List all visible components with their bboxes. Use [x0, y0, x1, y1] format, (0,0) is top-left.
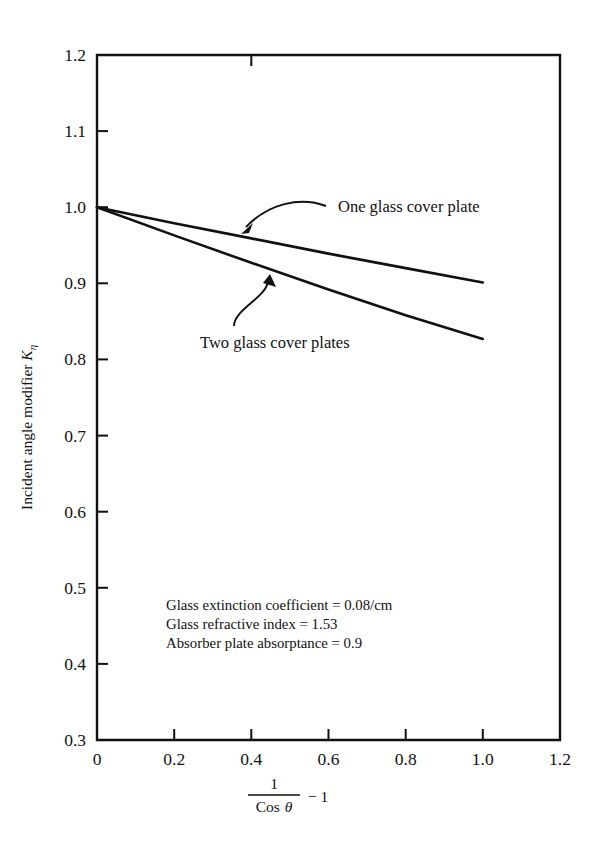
- y-axis-ticks: [97, 55, 108, 740]
- x-tick-label-0.4: 0.4: [240, 749, 262, 769]
- callout-line-two-glass: [234, 282, 268, 326]
- y-tick-label-0.5: 0.5: [64, 578, 86, 598]
- y-tick-label-0.3: 0.3: [64, 730, 86, 750]
- note-line-extinction-coefficient: Glass extinction coefficient = 0.08/cm: [166, 597, 393, 613]
- chart-figure: 1.2 1.1 1.0 0.9 0.8 0.7 0.6 0.5 0.4 0.3 …: [0, 0, 592, 842]
- series-line-one-glass-cover-plate: [97, 207, 483, 282]
- callout-line-one-glass: [246, 202, 326, 227]
- x-tick-labels: 0 0.2 0.4 0.6 0.8 1.0 1.2: [93, 749, 571, 769]
- x-tick-label-0.8: 0.8: [395, 749, 417, 769]
- y-tick-label-0.8: 0.8: [64, 349, 86, 369]
- y-tick-label-0.4: 0.4: [64, 654, 86, 674]
- x-axis-title-denominator: Cos: [256, 798, 280, 815]
- x-axis-title-theta: θ: [285, 798, 293, 815]
- y-axis-title-subscript: η: [26, 345, 38, 350]
- y-tick-label-0.6: 0.6: [64, 502, 86, 522]
- callout-arrowhead-two-glass: [263, 274, 276, 287]
- series-label-one-glass-cover-plate: One glass cover plate: [338, 197, 480, 216]
- y-tick-labels: 1.2 1.1 1.0 0.9 0.8 0.7 0.6 0.5 0.4 0.3: [64, 45, 86, 750]
- svg-text:Cosθ: Cosθ: [256, 798, 293, 815]
- incident-angle-modifier-chart: 1.2 1.1 1.0 0.9 0.8 0.7 0.6 0.5 0.4 0.3 …: [0, 0, 592, 842]
- parameters-note: Glass extinction coefficient = 0.08/cm G…: [166, 597, 393, 651]
- y-tick-label-1.1: 1.1: [64, 121, 86, 141]
- series-line-two-glass-cover-plates: [97, 207, 483, 339]
- y-axis-title-text: Incident angle modifier: [18, 361, 35, 510]
- x-axis-title-numerator: 1: [270, 775, 278, 792]
- series-label-two-glass-cover-plates: Two glass cover plates: [200, 333, 350, 352]
- y-axis-title: Incident angle modifier Kη: [18, 345, 38, 510]
- x-axis-title-suffix: − 1: [308, 788, 328, 805]
- y-tick-label-0.9: 0.9: [64, 273, 86, 293]
- y-tick-label-1.2: 1.2: [64, 45, 86, 65]
- x-tick-label-1.2: 1.2: [549, 749, 571, 769]
- callout-two-glass-cover-plates: Two glass cover plates: [200, 274, 350, 352]
- x-tick-label-0.6: 0.6: [318, 749, 340, 769]
- x-tick-label-0: 0: [93, 749, 102, 769]
- x-tick-label-0.2: 0.2: [163, 749, 185, 769]
- callout-one-glass-cover-plate: One glass cover plate: [241, 197, 480, 234]
- x-tick-label-1.0: 1.0: [472, 749, 494, 769]
- y-tick-label-1.0: 1.0: [64, 197, 86, 217]
- note-line-refractive-index: Glass refractive index = 1.53: [166, 616, 337, 632]
- x-axis-title: 1 Cosθ − 1: [248, 775, 328, 815]
- note-line-absorber-absorptance: Absorber plate absorptance = 0.9: [166, 635, 362, 651]
- svg-text:Incident angle modifier Kη: Incident angle modifier Kη: [18, 345, 38, 510]
- y-axis-title-symbol: K: [18, 350, 35, 362]
- y-tick-label-0.7: 0.7: [64, 426, 86, 446]
